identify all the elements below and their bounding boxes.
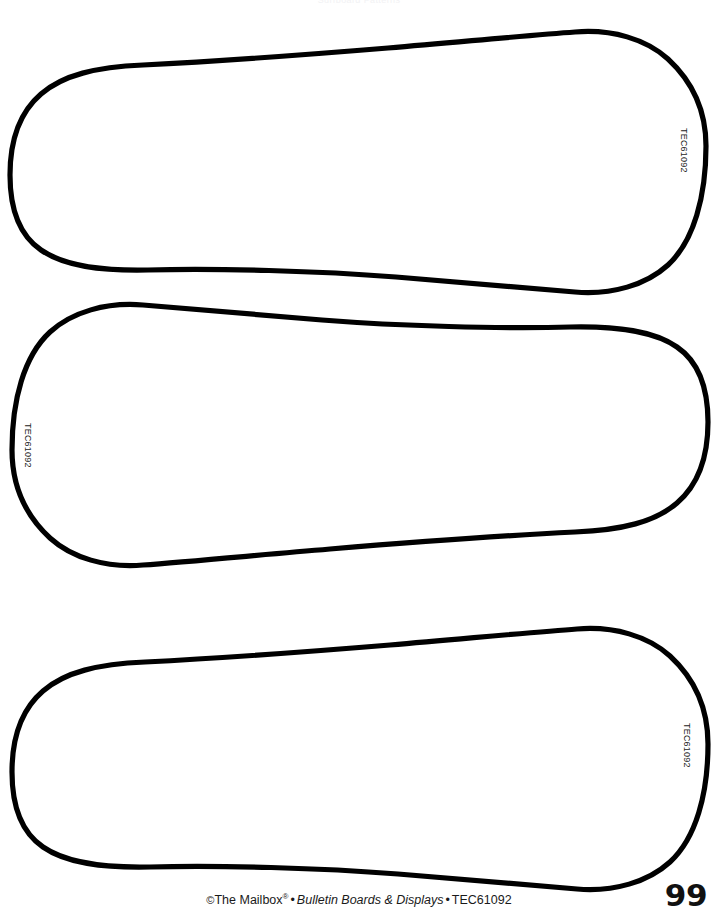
pattern-page: Surfboard Patterns TEC61092 TEC61092 TEC… bbox=[0, 0, 718, 917]
footer-separator-2: • bbox=[443, 893, 451, 907]
series-title: Bulletin Boards & Displays bbox=[297, 893, 444, 907]
product-code-label-2: TEC61092 bbox=[23, 423, 33, 468]
pattern-shapes-svg bbox=[0, 0, 718, 917]
product-code-label-3: TEC61092 bbox=[682, 723, 692, 768]
page-number: 99 bbox=[665, 880, 707, 911]
footer-product-code: TEC61092 bbox=[452, 893, 512, 907]
footer-credit: ©The Mailbox®•Bulletin Boards & Displays… bbox=[0, 893, 718, 907]
product-code-label-1: TEC61092 bbox=[679, 128, 689, 173]
pattern-shapes-layer bbox=[0, 0, 718, 917]
footer-separator-1: • bbox=[288, 893, 296, 907]
surfboard-outline-2 bbox=[12, 304, 708, 565]
publisher-name: The Mailbox bbox=[214, 893, 282, 907]
surfboard-outline-1 bbox=[10, 31, 706, 292]
surfboard-outline-3 bbox=[12, 628, 708, 889]
